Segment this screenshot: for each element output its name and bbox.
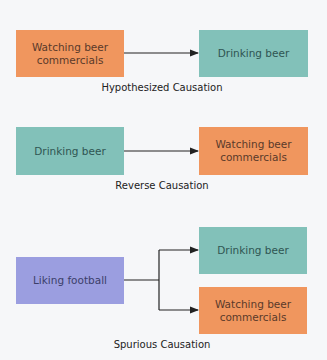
caption-spurious-causation: Spurious Causation [62, 339, 262, 350]
node-drinking-beer: Drinking beer [199, 227, 307, 274]
node-watching-beer-commercials: Watching beer commercials [199, 127, 308, 175]
node-drinking-beer: Drinking beer [16, 127, 124, 175]
node-drinking-beer: Drinking beer [199, 30, 308, 77]
node-watching-beer-commercials: Watching beer commercials [16, 30, 124, 77]
caption-reverse-causation: Reverse Causation [62, 180, 262, 191]
caption-hypothesized-causation: Hypothesized Causation [62, 82, 262, 93]
node-watching-beer-commercials: Watching beer commercials [199, 287, 307, 334]
node-liking-football: Liking football [16, 257, 124, 304]
